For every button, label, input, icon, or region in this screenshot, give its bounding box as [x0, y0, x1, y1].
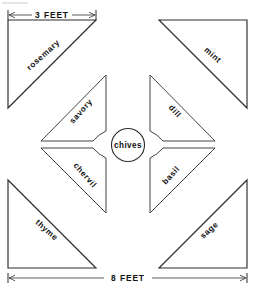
scan-artifact: [2, 2, 28, 4]
bed-thyme[interactable]: thyme: [8, 180, 96, 268]
dimension-top-label: 3 FEET: [35, 10, 69, 20]
bed-dill[interactable]: dill: [150, 75, 215, 141]
bed-chives[interactable]: chives: [112, 129, 145, 162]
herb-garden-plan: 3 FEET rosemary mint thyme sage savory: [0, 0, 256, 290]
bed-rosemary[interactable]: rosemary: [8, 20, 96, 108]
bed-chives-label: chives: [114, 141, 142, 150]
bed-basil[interactable]: basil: [150, 148, 215, 213]
dimension-top: 3 FEET: [8, 10, 96, 20]
bed-savory[interactable]: savory: [41, 75, 106, 141]
bed-mint[interactable]: mint: [159, 20, 247, 108]
bed-chervil[interactable]: chervil: [41, 148, 106, 213]
dimension-bottom: 8 FEET: [8, 273, 247, 283]
dimension-bottom-label: 8 FEET: [111, 273, 145, 283]
bed-sage[interactable]: sage: [159, 180, 247, 268]
garden-diagram-svg: 3 FEET rosemary mint thyme sage savory: [0, 0, 256, 290]
